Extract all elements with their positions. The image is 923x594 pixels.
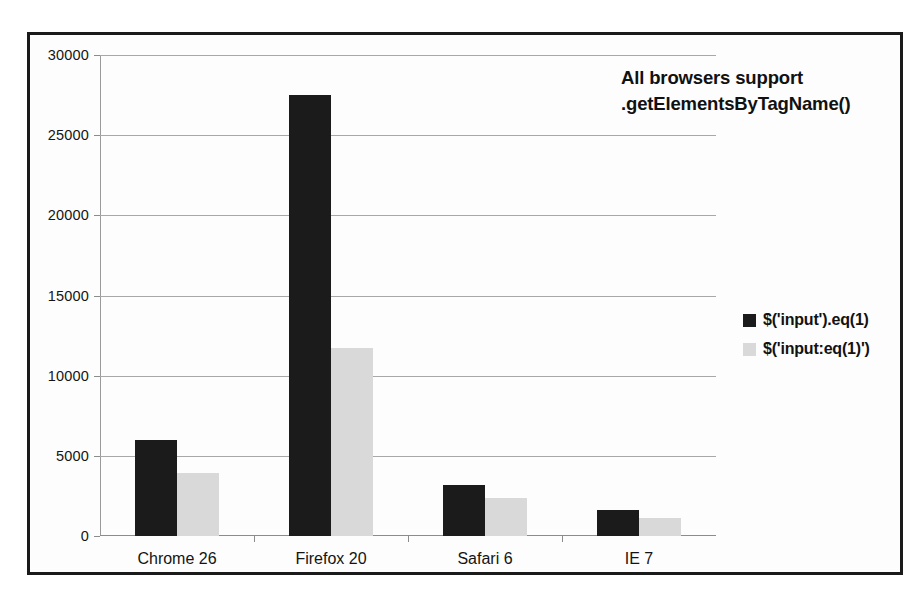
y-axis-tick-label: 20000 — [48, 207, 89, 223]
y-axis-tick — [94, 456, 100, 457]
legend-swatch — [743, 343, 756, 356]
y-axis-tick — [94, 135, 100, 136]
bar — [289, 95, 331, 536]
chart-legend: $('input').eq(1)$('input:eq(1)') — [743, 311, 923, 369]
y-axis-tick — [94, 536, 100, 537]
bar — [135, 440, 177, 536]
x-axis-tick — [254, 536, 255, 542]
x-axis-tick — [408, 536, 409, 542]
bar — [639, 518, 681, 536]
plot-area: 050001000015000200002500030000 Chrome 26… — [100, 55, 716, 536]
bar-group — [289, 55, 373, 536]
bar — [177, 473, 219, 536]
y-axis-tick — [94, 376, 100, 377]
x-axis-category-label: Chrome 26 — [137, 550, 216, 568]
bar-group — [135, 55, 219, 536]
y-axis-tick-label: 30000 — [48, 47, 89, 63]
bar-group — [597, 55, 681, 536]
y-axis-tick-label: 25000 — [48, 127, 89, 143]
legend-item[interactable]: $('input').eq(1) — [743, 311, 923, 329]
legend-label: $('input:eq(1)') — [763, 340, 870, 358]
bar-group — [443, 55, 527, 536]
legend-label: $('input').eq(1) — [763, 311, 869, 329]
x-axis-tick — [562, 536, 563, 542]
legend-item[interactable]: $('input:eq(1)') — [743, 340, 923, 358]
bar — [485, 498, 527, 536]
y-axis-tick-label: 0 — [81, 528, 89, 544]
y-axis-tick-label: 10000 — [48, 368, 89, 384]
y-axis-tick — [94, 296, 100, 297]
bar — [443, 485, 485, 536]
y-axis-tick-label: 15000 — [48, 288, 89, 304]
x-axis-category-label: IE 7 — [625, 550, 653, 568]
y-axis-tick — [94, 55, 100, 56]
bar — [331, 348, 373, 536]
legend-swatch — [743, 314, 756, 327]
bar — [597, 510, 639, 536]
x-axis-category-label: Safari 6 — [457, 550, 512, 568]
x-axis-category-label: Firefox 20 — [295, 550, 366, 568]
y-axis-tick-label: 5000 — [56, 448, 89, 464]
chart-frame: All browsers support .getElementsByTagNa… — [27, 32, 903, 575]
y-axis-tick — [94, 215, 100, 216]
